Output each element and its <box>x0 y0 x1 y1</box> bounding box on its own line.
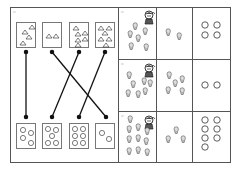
triangle-icons <box>17 23 37 49</box>
circle-count-cell <box>193 60 230 111</box>
ice-cream-answer-cell <box>157 112 193 163</box>
ice-cream-icons <box>157 112 193 164</box>
counting-row-3: ▫ <box>119 112 230 163</box>
circle-icons <box>193 60 230 112</box>
circle-icons <box>70 124 90 150</box>
circle-icons <box>96 124 116 150</box>
circle-count-cell <box>193 112 230 163</box>
ice-cream-group-cell: ▫ <box>119 8 157 59</box>
ice-cream-icons <box>157 60 193 112</box>
counting-row-2: ▫ <box>119 60 230 112</box>
circle-icons <box>17 124 37 150</box>
triangle-card-5[interactable] <box>69 22 89 48</box>
circle-icons <box>43 124 63 150</box>
counting-exercise-panel: ▫ ▫ <box>119 7 231 163</box>
circle-count-cell <box>193 8 230 59</box>
ice-cream-group-cell: ▫ <box>119 112 157 163</box>
mascot-icon <box>145 116 155 129</box>
triangle-card-6[interactable] <box>95 22 115 48</box>
circle-card-6[interactable] <box>69 123 89 149</box>
ice-cream-answer-cell <box>157 8 193 59</box>
mascot-icon <box>145 64 155 77</box>
circle-card-2[interactable] <box>95 123 115 149</box>
triangle-icons <box>96 23 116 49</box>
triangle-icons <box>70 23 90 49</box>
counting-row-1: ▫ <box>119 8 230 60</box>
mascot-icon <box>145 11 155 24</box>
circle-icons <box>193 8 230 60</box>
ice-cream-icons <box>119 112 157 164</box>
ice-cream-answer-cell <box>157 60 193 111</box>
triangle-icons <box>43 23 63 49</box>
ice-cream-icons <box>119 60 157 112</box>
ice-cream-icons <box>157 8 193 60</box>
triangle-card-2[interactable] <box>42 22 62 48</box>
circle-icons <box>193 112 230 164</box>
triangle-card-4[interactable] <box>16 22 36 48</box>
circle-card-4[interactable] <box>16 123 36 149</box>
matching-exercise-panel: ▫ <box>10 7 119 163</box>
ice-cream-group-cell: ▫ <box>119 60 157 111</box>
circle-card-5[interactable] <box>42 123 62 149</box>
ice-cream-icons <box>119 8 157 60</box>
